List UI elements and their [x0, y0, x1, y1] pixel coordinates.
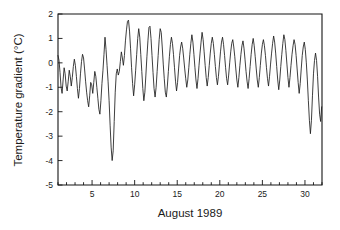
x-tick-label: 25 — [258, 189, 268, 199]
y-tick-label: -3 — [45, 131, 53, 141]
y-tick-label: 0 — [48, 58, 53, 68]
x-tick-label: 15 — [172, 189, 182, 199]
y-tick-label: -1 — [45, 82, 53, 92]
y-tick-label: -2 — [45, 107, 53, 117]
x-tick-label: 20 — [215, 189, 225, 199]
y-tick-label: -5 — [45, 180, 53, 190]
y-tick-label: 1 — [48, 33, 53, 43]
y-tick-label: -4 — [45, 156, 53, 166]
y-axis-title: Temperature gradient (°C) — [12, 33, 24, 166]
figure-container: 210-1-2-3-4-5 51015202530 Temperature gr… — [0, 0, 340, 230]
x-tick-label: 5 — [90, 189, 95, 199]
x-tick-label: 30 — [300, 189, 310, 199]
temperature-gradient-line-chart: 210-1-2-3-4-5 51015202530 Temperature gr… — [0, 0, 340, 230]
x-axis-title: August 1989 — [158, 207, 223, 219]
x-tick-label: 10 — [130, 189, 140, 199]
y-tick-label: 2 — [48, 9, 53, 19]
